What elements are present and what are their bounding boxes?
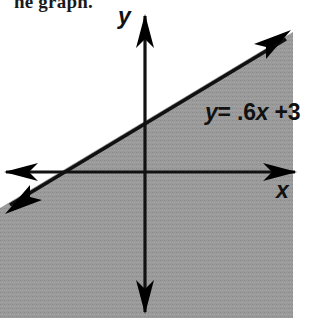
equation-lhs: y: [205, 99, 218, 125]
equation-variable: x: [256, 99, 269, 125]
equation-operator: = .: [218, 99, 244, 125]
graph-figure: he graph.: [0, 0, 317, 328]
equation-coefficient: 6: [243, 99, 256, 125]
coordinate-plane: [0, 0, 317, 328]
y-axis-label: y: [118, 3, 131, 30]
equation-constant: +3: [275, 99, 301, 125]
x-axis-label: x: [276, 177, 289, 204]
equation-label: y= .6x +3: [205, 99, 300, 126]
